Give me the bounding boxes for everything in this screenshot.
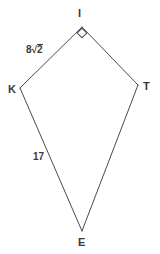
- side-length-label-KE: 17: [33, 152, 44, 162]
- side-IT: [82, 27, 138, 85]
- side-KE: [20, 88, 82, 231]
- geometry-figure-kite: I T E K 8√2 17: [0, 0, 160, 254]
- side-length-label-KI: 8√2: [26, 44, 43, 55]
- side-TE: [82, 85, 138, 231]
- vertex-label-E: E: [78, 237, 85, 248]
- radical-radicand: 2: [37, 44, 44, 55]
- radical-expression: 8√2: [26, 44, 43, 55]
- vertex-label-K: K: [8, 84, 16, 95]
- vertex-label-T: T: [143, 81, 150, 92]
- side-KI: [20, 27, 82, 88]
- vertex-label-I: I: [78, 8, 81, 19]
- kite-diagram-svg: [0, 0, 160, 254]
